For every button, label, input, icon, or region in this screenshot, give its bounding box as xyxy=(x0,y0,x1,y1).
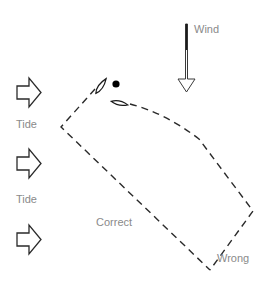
wind-arrow-icon xyxy=(178,24,195,92)
tide-arrow-icon xyxy=(17,225,41,254)
wind-label: Wind xyxy=(194,24,219,35)
boat-icon-correct xyxy=(94,77,108,94)
tide-label-1: Tide xyxy=(16,119,37,130)
tide-label-2: Tide xyxy=(16,194,37,205)
correct-course-path xyxy=(61,89,210,270)
tide-arrow-icon xyxy=(17,149,41,178)
sailing-tactics-diagram xyxy=(0,0,269,289)
wrong-course-path xyxy=(130,104,253,270)
correct-label: Correct xyxy=(96,217,132,228)
mark-buoy-icon xyxy=(112,80,119,87)
wrong-label: Wrong xyxy=(217,253,249,264)
tide-arrow-icon xyxy=(17,78,41,107)
boat-icon-wrong xyxy=(111,99,128,106)
